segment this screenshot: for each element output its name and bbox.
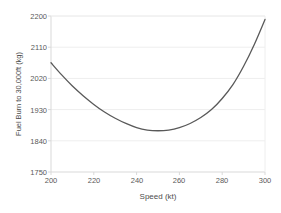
axis-lines (51, 16, 265, 172)
gridlines (51, 16, 265, 141)
data-series-line (51, 19, 265, 130)
plot-area (0, 0, 281, 213)
fuel-burn-speed-chart: Fuel Burn to 30,000ft (kg) 2200 2110 202… (0, 0, 281, 213)
tick-marks (48, 16, 265, 175)
